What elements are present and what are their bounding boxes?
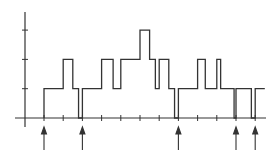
- diagram-canvas: [0, 0, 277, 155]
- up-arrow-icon: [176, 127, 181, 150]
- step-diagram: [0, 0, 277, 155]
- up-arrow-icon: [80, 127, 85, 150]
- up-arrow-icon: [253, 127, 258, 150]
- up-arrow-icon: [42, 127, 47, 150]
- up-arrow-icon: [234, 127, 239, 150]
- step-profile-line: [44, 30, 265, 118]
- event-arrows: [42, 127, 258, 150]
